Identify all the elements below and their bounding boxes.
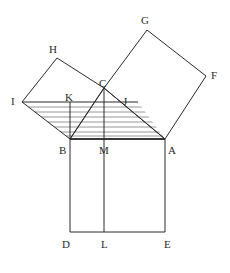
geometry-svg [0, 0, 230, 273]
vertex-label-j: J [123, 96, 127, 107]
vertex-label-k: K [65, 92, 73, 103]
vertex-label-m: M [99, 145, 109, 156]
square-on-right-leg-cgfa [104, 30, 206, 139]
vertex-label-h: H [49, 44, 57, 55]
vertex-label-d: D [62, 239, 70, 250]
vertex-label-e: E [164, 239, 171, 250]
square-on-hypotenuse-abed [70, 139, 165, 232]
right-triangle-abc [70, 88, 165, 139]
vertex-label-l: L [101, 239, 108, 250]
vertex-label-f: F [211, 70, 217, 81]
hatch-group [10, 107, 220, 136]
geometry-figure: A B C D E F G H I J K L M [0, 0, 230, 273]
vertex-label-b: B [59, 145, 66, 156]
vertex-label-i: I [11, 96, 15, 107]
vertex-label-a: A [168, 145, 176, 156]
vertex-label-c: C [99, 78, 106, 89]
vertex-label-g: G [141, 15, 149, 26]
